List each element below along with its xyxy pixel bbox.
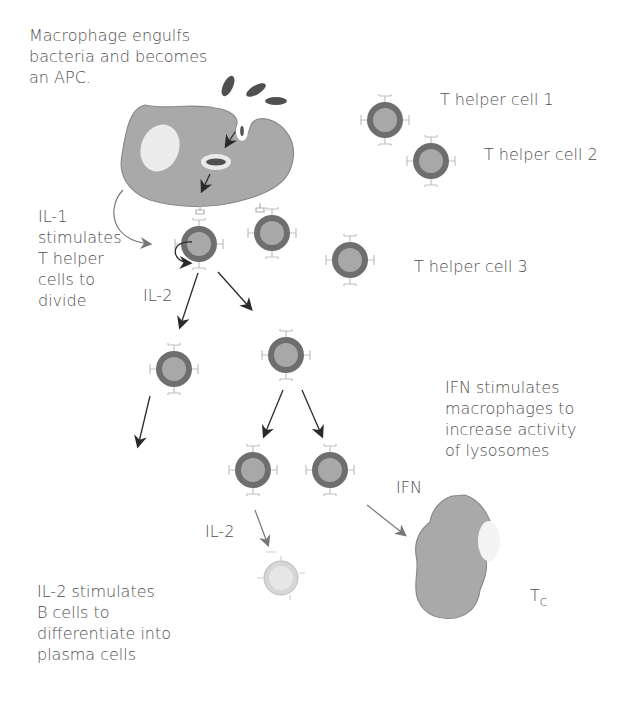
t-helper-cell-2 (407, 135, 455, 187)
label-il2-bottom: IL-2 (205, 521, 234, 542)
t-helper-cell-daughter-right (262, 329, 310, 381)
label-t-helper-cell-2: T helper cell 2 (484, 144, 598, 165)
label-macrophage-apc: Macrophage engulfs bacteria and becomes … (29, 25, 207, 88)
label-il1-stimulates: IL-1 stimulates T helper cells to divide (38, 206, 121, 311)
label-il2-stimulates-b-cells: IL-2 stimulates B cells to differentiate… (37, 581, 171, 665)
t-helper-cell-3 (326, 234, 374, 286)
t-helper-cell-gen3-left (229, 444, 277, 496)
label-ifn: IFN (396, 477, 422, 498)
label-t-helper-cell-1: T helper cell 1 (440, 89, 554, 110)
label-ifn-stimulates: IFN stimulates macrophages to increase a… (445, 377, 577, 461)
t-helper-cell-gen3-right (306, 444, 354, 496)
b-cell (257, 552, 305, 600)
t-helper-cell (248, 207, 296, 259)
bacteria-group (219, 74, 287, 105)
t-helper-cell-daughter-left (150, 343, 198, 395)
label-il2-top: IL-2 (143, 285, 172, 306)
signal-arrows (255, 505, 405, 545)
label-tc: TC (530, 585, 547, 608)
label-t-helper-cell-3: T helper cell 3 (414, 256, 528, 277)
macrophage-apc (121, 105, 293, 214)
t-helper-cell-dividing (175, 218, 223, 270)
t-helper-cell-1 (361, 94, 409, 146)
cytotoxic-t-cell-macrophage (416, 495, 500, 618)
